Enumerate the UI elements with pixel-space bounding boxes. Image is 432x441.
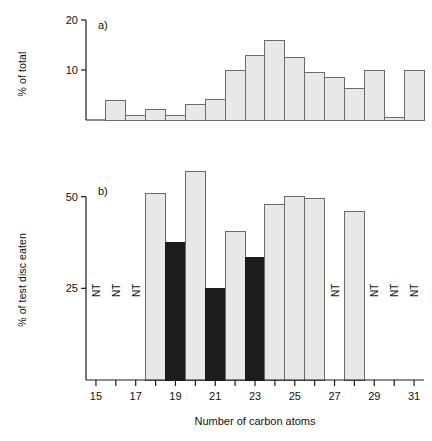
bar [106, 100, 126, 120]
bar [185, 171, 205, 380]
y-tick-label: 25 [66, 282, 78, 294]
x-axis-title: Number of carbon atoms [194, 415, 316, 427]
x-tick-label: 25 [289, 390, 301, 402]
bar [185, 104, 205, 120]
scientific-figure: 1020% of totala)2550% of test disc eaten… [0, 0, 432, 441]
nt-label: NT [131, 284, 142, 297]
bar [305, 199, 325, 381]
y-tick-label: 20 [66, 14, 78, 26]
nt-label: NT [330, 284, 341, 297]
panel-a-ylabel: % of total [16, 52, 28, 97]
bar [344, 211, 364, 380]
bar [384, 117, 404, 120]
panel-b-yaxis: 2550% of test disc eaten [16, 191, 86, 380]
panel-b: 2550% of test disc eatenNTNTNTNTNTNTNT15… [16, 171, 424, 427]
panel-a-label: a) [98, 19, 108, 31]
figure-container: 1020% of totala)2550% of test disc eaten… [0, 0, 432, 441]
x-tick-label: 31 [408, 390, 420, 402]
nt-label: NT [91, 284, 102, 297]
y-tick-label: 10 [66, 64, 78, 76]
bar [325, 78, 345, 121]
nt-label: NT [111, 284, 122, 297]
x-tick-label: 15 [90, 390, 102, 402]
bar [245, 257, 265, 380]
bar [225, 232, 245, 381]
bar [404, 70, 424, 120]
x-tick-label: 17 [130, 390, 142, 402]
panel-b-ylabel: % of test disc eaten [16, 233, 28, 327]
x-tick-label: 21 [209, 390, 221, 402]
bar [166, 243, 186, 381]
nt-label: NT [409, 284, 420, 297]
bar [285, 58, 305, 121]
bar [146, 109, 166, 120]
bar [265, 204, 285, 380]
bar [126, 115, 146, 120]
bar [285, 197, 305, 380]
panel-b-xaxis: 151719212325272931Number of carbon atoms [86, 380, 424, 427]
bar [364, 70, 384, 120]
bar [225, 70, 245, 120]
bar [205, 288, 225, 380]
x-tick-label: 29 [368, 390, 380, 402]
bar [265, 40, 285, 120]
nt-label: NT [369, 284, 380, 297]
x-tick-label: 23 [249, 390, 261, 402]
nt-label: NT [389, 284, 400, 297]
bar [146, 193, 166, 380]
panel-a-bars [106, 40, 424, 120]
bar [305, 73, 325, 121]
panel-a-yaxis: 1020% of total [16, 14, 86, 120]
bar [205, 99, 225, 120]
bar [344, 89, 364, 121]
bar [166, 115, 186, 120]
x-tick-label: 19 [169, 390, 181, 402]
bar [245, 55, 265, 120]
x-tick-label: 27 [328, 390, 340, 402]
panel-b-label: b) [98, 185, 108, 197]
panel-a: 1020% of totala) [16, 14, 424, 120]
y-tick-label: 50 [66, 191, 78, 203]
panel-b-bars [146, 171, 365, 380]
